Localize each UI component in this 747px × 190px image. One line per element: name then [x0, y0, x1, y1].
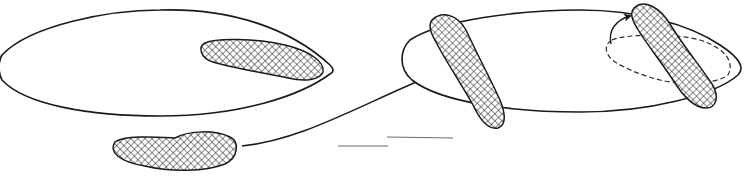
left-panel	[0, 10, 333, 170]
right-panel	[402, 4, 741, 128]
faint-marks	[338, 137, 453, 146]
diagram-canvas	[0, 0, 747, 190]
diagram-svg	[0, 0, 747, 190]
left-lower-hatched-body	[113, 132, 236, 170]
